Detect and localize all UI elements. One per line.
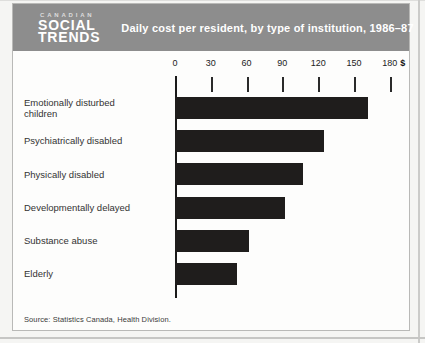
axis-tick-label: 0 (172, 58, 177, 68)
category-label: Substance abuse (24, 230, 144, 252)
category-label: Psychiatrically disabled (24, 130, 144, 152)
scanned-page: CANADIAN SOCIAL TRENDS Daily cost per re… (0, 0, 425, 343)
category-label: Emotionally disturbed children (24, 97, 144, 119)
axis-tick-label: 90 (277, 58, 287, 68)
axis-tick-label: 120 (311, 58, 326, 68)
bar-1 (175, 97, 368, 119)
page-edge-right (418, 0, 420, 343)
source-note: Source: Statistics Canada, Health Divisi… (24, 315, 171, 324)
axis-tick-label: 30 (206, 58, 216, 68)
plot-area: 0306090120150180$Emotionally disturbed c… (13, 4, 409, 330)
axis-tick (318, 77, 320, 92)
axis-unit-label: $ (400, 58, 405, 68)
axis-tick (211, 77, 213, 92)
category-label: Developmentally delayed (24, 197, 144, 219)
bar-4 (175, 197, 285, 219)
page-edge-bottom (0, 337, 425, 339)
bar-2 (175, 130, 324, 152)
axis-tick (282, 77, 284, 92)
category-label: Elderly (24, 263, 144, 285)
axis-tick (354, 77, 356, 92)
category-label: Physically disabled (24, 163, 144, 185)
chart-card: CANADIAN SOCIAL TRENDS Daily cost per re… (12, 3, 410, 331)
axis-tick (390, 77, 392, 92)
page-edge-top (0, 0, 425, 1)
bar-3 (175, 163, 303, 185)
axis-tick-label: 150 (346, 58, 361, 68)
axis-tick-label: 60 (242, 58, 252, 68)
bar-5 (175, 230, 249, 252)
bar-6 (175, 263, 237, 285)
axis-tick-label: 180 (382, 58, 397, 68)
axis-tick (247, 77, 249, 92)
